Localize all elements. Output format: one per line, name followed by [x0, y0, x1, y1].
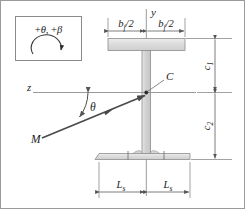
web	[142, 51, 151, 154]
y-axis-label: y	[150, 6, 156, 18]
figure-container: +θ, +β bf/2 bf/2 y	[0, 0, 245, 209]
top-flange	[108, 39, 185, 51]
bottom-flange	[95, 154, 190, 160]
sign-convention-box: +θ, +β	[16, 17, 82, 61]
sign-convention-label: +θ, +β	[35, 24, 63, 35]
angle-theta-label: θ	[90, 101, 96, 113]
centroid-label: C	[166, 70, 174, 82]
moment-vector-M-label: M	[30, 133, 42, 145]
z-axis-label: z	[26, 82, 31, 93]
cross-section-diagram: +θ, +β bf/2 bf/2 y	[0, 0, 245, 209]
